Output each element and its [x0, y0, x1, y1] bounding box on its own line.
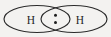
diagram-background [0, 0, 111, 37]
left-atom-label: H [27, 14, 35, 26]
right-atom-label: H [76, 14, 84, 26]
diagram-canvas: H H [0, 0, 111, 37]
shared-electron-dot-lower [54, 21, 57, 24]
shared-electron-dot-upper [54, 14, 57, 17]
h2-lewis-overlap-diagram: H H [0, 0, 111, 37]
